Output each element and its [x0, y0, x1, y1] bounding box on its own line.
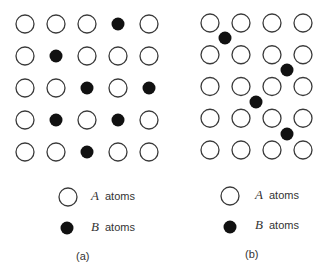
atom-a-open-circle-icon: [294, 141, 312, 159]
atom-a-open-circle-icon: [263, 109, 281, 127]
atom-a-open-circle-icon: [16, 111, 34, 129]
panel-b-caption: (b): [245, 248, 258, 260]
legend-b-item-a: Aatoms: [255, 187, 299, 203]
atom-a-open-circle-icon: [263, 46, 281, 64]
legend-a-item-b: Batoms: [91, 219, 135, 235]
atom-a-open-circle-icon: [201, 109, 219, 127]
atom-a-open-circle-icon: [140, 111, 158, 129]
interstitial-atom-b-filled-circle-icon: [281, 128, 294, 141]
panel-b-interstitial-lattice: [201, 14, 312, 159]
legend-label: atoms: [105, 190, 135, 202]
atom-a-open-circle-icon: [78, 111, 96, 129]
atom-arrangement-diagram: [0, 0, 324, 278]
atom-a-open-circle-icon: [232, 46, 250, 64]
atom-a-open-circle-icon: [109, 143, 127, 161]
legend-b-filled-circle-icon: [224, 221, 237, 234]
atom-a-open-circle-icon: [294, 46, 312, 64]
atom-a-open-circle-icon: [78, 15, 96, 33]
panel-a-substitutional-lattice: [16, 15, 158, 161]
atom-a-open-circle-icon: [16, 79, 34, 97]
legend-symbol: B: [255, 217, 263, 232]
atom-a-open-circle-icon: [140, 47, 158, 65]
atom-a-open-circle-icon: [47, 15, 65, 33]
legend-a-filled-circle-icon: [61, 222, 74, 235]
atom-a-open-circle-icon: [78, 47, 96, 65]
atom-a-open-circle-icon: [232, 109, 250, 127]
interstitial-atom-b-filled-circle-icon: [281, 64, 294, 77]
legend-symbol: A: [91, 188, 99, 203]
atom-a-open-circle-icon: [232, 141, 250, 159]
atom-a-open-circle-icon: [232, 78, 250, 96]
atom-a-open-circle-icon: [201, 78, 219, 96]
legend-a-open-circle-icon: [59, 188, 77, 206]
atom-a-open-circle-icon: [263, 78, 281, 96]
legend-label: atoms: [269, 219, 299, 231]
atom-a-open-circle-icon: [201, 46, 219, 64]
legend-b-item-b: Batoms: [255, 217, 299, 233]
legend-a-item-a: Aatoms: [91, 188, 135, 204]
atom-a-open-circle-icon: [294, 109, 312, 127]
interstitial-atom-b-filled-circle-icon: [250, 96, 263, 109]
legend-symbol: A: [255, 187, 263, 202]
atom-a-open-circle-icon: [294, 14, 312, 32]
atom-b-filled-circle-icon: [112, 18, 125, 31]
atom-a-open-circle-icon: [232, 14, 250, 32]
atom-b-filled-circle-icon: [81, 146, 94, 159]
atom-a-open-circle-icon: [47, 79, 65, 97]
atom-a-open-circle-icon: [263, 141, 281, 159]
interstitial-atom-b-filled-circle-icon: [219, 32, 232, 45]
legend-label: atoms: [105, 221, 135, 233]
atom-a-open-circle-icon: [201, 14, 219, 32]
atom-a-open-circle-icon: [16, 143, 34, 161]
panel-a-caption: (a): [76, 250, 89, 262]
atom-a-open-circle-icon: [201, 141, 219, 159]
legend-symbol: B: [91, 219, 99, 234]
atom-a-open-circle-icon: [16, 15, 34, 33]
atom-b-filled-circle-icon: [81, 82, 94, 95]
atom-b-filled-circle-icon: [50, 114, 63, 127]
legend-label: atoms: [269, 189, 299, 201]
atom-a-open-circle-icon: [109, 47, 127, 65]
legend-markers: [59, 187, 239, 235]
atom-b-filled-circle-icon: [112, 114, 125, 127]
atom-b-filled-circle-icon: [50, 50, 63, 63]
atom-a-open-circle-icon: [109, 79, 127, 97]
atom-a-open-circle-icon: [140, 15, 158, 33]
atom-a-open-circle-icon: [16, 47, 34, 65]
atom-a-open-circle-icon: [47, 143, 65, 161]
atom-b-filled-circle-icon: [143, 82, 156, 95]
atom-a-open-circle-icon: [294, 78, 312, 96]
atom-a-open-circle-icon: [263, 14, 281, 32]
atom-a-open-circle-icon: [140, 143, 158, 161]
legend-b-open-circle-icon: [221, 187, 239, 205]
